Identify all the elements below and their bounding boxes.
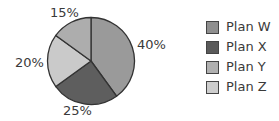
legend-label: Plan Z xyxy=(226,79,267,94)
slice-label-plan-y: 20% xyxy=(15,56,44,70)
legend-swatch-plan-z xyxy=(206,81,219,94)
legend: Plan W Plan X Plan Y Plan Z xyxy=(205,20,275,100)
legend-label: Plan X xyxy=(226,39,267,54)
legend-item-plan-z: Plan Z xyxy=(205,80,275,100)
slice-label-plan-z: 15% xyxy=(50,6,79,20)
legend-item-plan-y: Plan Y xyxy=(205,60,275,80)
legend-item-plan-w: Plan W xyxy=(205,20,275,40)
legend-swatch-plan-w xyxy=(206,21,219,34)
legend-swatch-plan-x xyxy=(206,41,219,54)
legend-item-plan-x: Plan X xyxy=(205,40,275,60)
legend-label: Plan Y xyxy=(226,59,266,74)
legend-swatch-plan-y xyxy=(206,61,219,74)
slice-label-plan-x: 25% xyxy=(63,104,92,118)
pie-chart: 40% 25% 20% 15% Plan W Plan X Plan Y Pla… xyxy=(0,0,279,121)
legend-label: Plan W xyxy=(226,19,271,34)
slice-label-plan-w: 40% xyxy=(137,38,166,52)
